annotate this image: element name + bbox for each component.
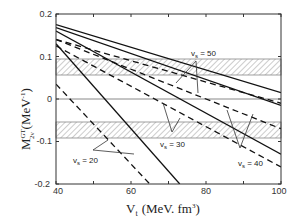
annotation-vs50: vs = 50 — [191, 49, 217, 59]
annotation-vs40: vs = 40 — [238, 159, 264, 169]
y-tick-label: 0.2 — [39, 9, 52, 19]
chart: 0.2 0.1 0 -0.1 -0.2 40 60 80 100 Vt(MeV.… — [0, 0, 304, 223]
curve-line — [56, 40, 281, 129]
annotation-vs30: vs = 30 — [160, 140, 186, 150]
x-tick-label: 60 — [126, 186, 136, 196]
x-tick-label: 100 — [271, 186, 286, 196]
y-tick-label: -0.2 — [34, 179, 50, 189]
y-tick-label: 0.1 — [39, 52, 52, 62]
annotation-vs20: vs = 20 — [73, 156, 99, 166]
y-tick-label: -0.1 — [36, 136, 52, 146]
x-tick-label: 40 — [53, 186, 63, 196]
x-axis-label: Vt(MeV. fm3) — [126, 201, 200, 218]
y-axis-label: MGT2ν(MeV-1) — [18, 88, 36, 150]
x-tick-label: 80 — [201, 186, 211, 196]
y-tick-label: 0 — [47, 94, 52, 104]
